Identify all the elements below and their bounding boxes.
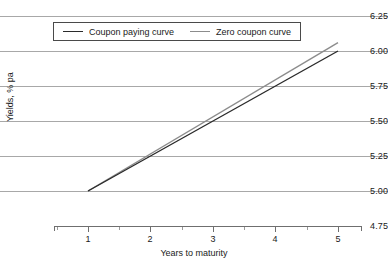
y-tick-label-5.75: 5.75 [342,81,388,91]
y-tick-label-5.00: 5.00 [342,186,388,196]
x-tick-minor-1.5 [119,227,120,230]
gridline-5.50 [0,121,388,122]
legend-line-swatch-icon [190,31,210,32]
x-tick-minor-2.5 [182,227,183,230]
legend-label-zero-coupon-curve: Zero coupon curve [216,27,291,37]
gridline-5.00 [0,191,388,192]
legend-entry-zero-coupon-curve: Zero coupon curve [190,27,291,37]
y-tick-label-4.75: 4.75 [342,221,388,231]
x-tick-1 [88,227,89,232]
x-axis-line [54,226,362,227]
y-tick-label-5.50: 5.50 [342,116,388,126]
x-tick-label-2: 2 [138,234,162,244]
x-tick-minor-4.5 [307,227,308,230]
x-axis-left-cap [54,226,55,231]
x-tick-label-3: 3 [201,234,225,244]
legend-entry-coupon-paying-curve: Coupon paying curve [63,27,174,37]
gridline-5.25 [0,156,388,157]
legend-label-coupon-paying-curve: Coupon paying curve [89,27,174,37]
gridline-5.75 [0,86,388,87]
y-axis-title: Yields, % pa [5,37,15,157]
x-tick-5 [338,227,339,232]
gridline-6.25 [0,16,388,17]
x-tick-minor-3.5 [244,227,245,230]
chart-legend: Coupon paying curve Zero coupon curve [53,22,301,41]
x-tick-minor-0.5 [57,227,58,230]
x-tick-3 [213,227,214,232]
yield-curve-chart: 6.25 6.00 5.75 5.50 5.25 5.00 4.75 1 2 3… [0,0,388,271]
x-axis-title: Years to maturity [0,248,388,258]
y-tick-label-6.00: 6.00 [342,46,388,56]
x-tick-label-4: 4 [263,234,287,244]
y-tick-label-6.25: 6.25 [342,11,388,21]
x-tick-4 [275,227,276,232]
legend-line-swatch-icon [63,31,83,32]
y-tick-label-5.25: 5.25 [342,151,388,161]
x-tick-label-5: 5 [326,234,350,244]
x-tick-2 [150,227,151,232]
gridline-6.00 [0,51,388,52]
x-tick-label-1: 1 [76,234,100,244]
series-line-zero-coupon-curve [88,43,338,191]
